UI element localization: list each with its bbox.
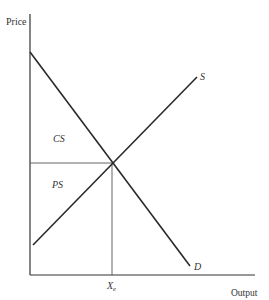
equilibrium-quantity-label: Xe — [106, 280, 116, 293]
x-axis-label: Output — [231, 288, 258, 298]
supply-curve — [33, 77, 197, 245]
producer-surplus-label: PS — [51, 179, 63, 190]
supply-label: S — [200, 71, 205, 82]
consumer-surplus-label: CS — [53, 133, 65, 144]
y-axis-label: Price — [6, 16, 27, 27]
supply-demand-diagram: Price Output CS PS S D Xe — [0, 0, 269, 300]
demand-curve — [30, 52, 190, 266]
demand-label: D — [193, 261, 202, 272]
